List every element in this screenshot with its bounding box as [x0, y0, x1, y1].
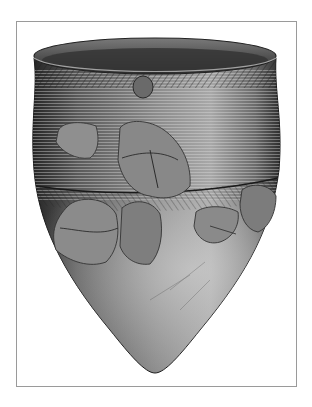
pottery-vessel — [0, 0, 312, 407]
shard-patch — [120, 202, 162, 265]
illustration-canvas — [0, 0, 312, 407]
vessel-rim — [34, 38, 276, 74]
applied-knob — [133, 76, 153, 98]
